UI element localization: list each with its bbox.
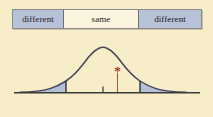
region-segment-label: same [92,15,111,24]
test-statistic-star-icon: * [114,63,121,78]
region-segment-different-left: different [13,10,64,28]
region-segment-label: different [154,15,186,24]
region-segment-label: different [22,15,54,24]
t-distribution-svg: * [0,30,213,117]
region-segment-same: same [64,10,139,28]
t-density-curve [20,47,186,92]
figure-root: different same different [0,0,213,117]
decision-regions-bar: different same different [12,9,202,29]
region-segment-different-right: different [139,10,201,28]
t-distribution-plot: * −1.83 0 1.83 t [0,30,213,117]
